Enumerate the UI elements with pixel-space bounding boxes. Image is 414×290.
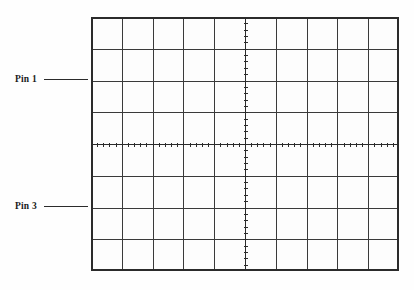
annotation-pin-1-label: Pin 1 bbox=[15, 75, 37, 85]
leader-line-pin-3 bbox=[44, 206, 88, 207]
oscilloscope-graticule bbox=[91, 17, 399, 271]
annotation-pin-3-label: Pin 3 bbox=[15, 202, 37, 212]
graticule-grid-svg bbox=[91, 17, 399, 271]
annotation-pin-1: Pin 1 bbox=[15, 75, 88, 85]
leader-line-pin-1 bbox=[44, 79, 88, 80]
figure-root: Pin 1 Pin 3 bbox=[0, 0, 414, 290]
annotation-pin-3: Pin 3 bbox=[15, 202, 88, 212]
